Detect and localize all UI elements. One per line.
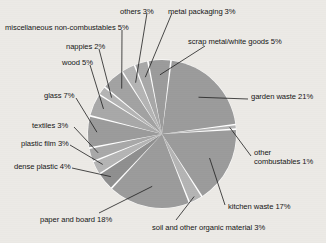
slice-label-miscellaneous-non-combustables: miscellaneous non-combustables 5% [5,23,129,32]
slice-label-plastic-film: plastic film 3% [21,139,69,148]
slice-label-paper-and-board: paper and board 18% [40,215,112,224]
slice-label-garden-waste: garden waste 21% [251,92,313,101]
slice-label-scrap-metal-white-goods: scrap metal/white goods 5% [188,37,282,46]
slice-label-metal-packaging: metal packaging 3% [168,7,236,16]
slice-label-glass: glass 7% [44,91,74,100]
slice-label-nappies: nappies 2% [66,42,105,51]
slice-label-soil-and-other-organic-material: soil and other organic material 3% [152,223,265,232]
slice-label-wood: wood 5% [62,58,93,67]
slice-label-kitchen-waste: kitchen waste 17% [228,202,290,211]
slice-label-others: others 3% [120,7,154,16]
slice-label-other-combustables: other combustables 1% [254,148,318,167]
slice-label-textiles: textiles 3% [32,121,68,130]
pie-slices-group [88,60,237,209]
slice-label-dense-plastic: dense plastic 4% [14,162,71,171]
pie-chart-figure: others 3% metal packaging 3% miscellaneo… [0,0,326,243]
